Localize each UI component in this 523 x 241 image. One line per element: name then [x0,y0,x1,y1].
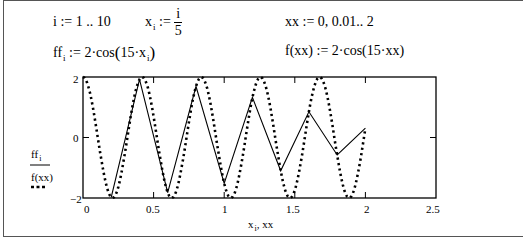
y-tick-zero: 0 [73,132,79,144]
y-tick-min: −2 [70,193,82,205]
xlabel-rest: , xx [257,218,274,230]
x-tick-2: 2 [364,203,370,215]
xlabel-subscript: i [255,224,257,233]
x-tick-0.5: 0.5 [146,203,160,215]
x-tick-1.5: 1.5 [286,203,300,215]
x-axis-label[interactable]: xi, xx [248,218,273,230]
legend-label-ff: ff [31,148,38,160]
x-tick-1: 1 [222,203,228,215]
x-tick-2.5: 2.5 [426,203,440,215]
legend-ff-i[interactable]: ffi [31,148,41,160]
series-ff-i [111,79,365,197]
xlabel-var: x [248,218,254,230]
y-tick-max: 2 [73,73,79,85]
legend-f-xx[interactable]: f(xx) [31,171,53,183]
x-tick-0: 0 [84,203,90,215]
